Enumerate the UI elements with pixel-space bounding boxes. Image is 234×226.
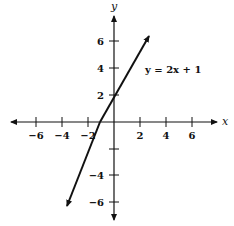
x-tick-label: 2 bbox=[137, 130, 144, 141]
y-tick-label: 4 bbox=[97, 63, 104, 74]
x-axis-label: x bbox=[222, 115, 229, 128]
y-tick-label: −4 bbox=[89, 170, 104, 181]
coordinate-plane: −6 −4 −2 2 4 6 6 4 2 −4 −6 y x y = 2x + … bbox=[0, 0, 234, 226]
x-tick-label: −4 bbox=[54, 130, 69, 141]
line-series bbox=[67, 36, 149, 206]
x-tick-label: 6 bbox=[189, 130, 196, 141]
x-tick-label: 4 bbox=[163, 130, 170, 141]
y-tick-label: 2 bbox=[97, 90, 104, 101]
x-tick-labels: −6 −4 −2 2 4 6 bbox=[28, 130, 195, 141]
x-tick-label: −6 bbox=[28, 130, 43, 141]
equation-label: y = 2x + 1 bbox=[144, 64, 201, 75]
y-tick-label: −6 bbox=[89, 197, 104, 208]
y-tick-label: 6 bbox=[97, 36, 104, 47]
y-axis-label: y bbox=[110, 0, 118, 13]
